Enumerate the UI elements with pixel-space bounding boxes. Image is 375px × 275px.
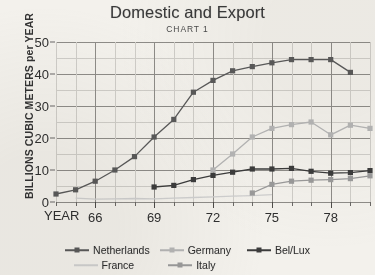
data-point-marker [250, 166, 255, 171]
chart-subtitle: CHART 1 [0, 23, 375, 34]
plot-area: 01020304050 6669727578 YEAR [56, 42, 370, 202]
data-point-marker [132, 154, 137, 159]
data-point-marker [210, 167, 215, 172]
data-point-marker [152, 134, 157, 139]
series-line [76, 195, 272, 200]
data-point-marker [289, 122, 294, 127]
data-point-marker [309, 119, 314, 124]
series-italy [250, 173, 373, 195]
data-point-marker [250, 64, 255, 69]
y-tick-mark [50, 74, 55, 75]
y-tick-label: 30 [35, 99, 49, 114]
x-tick-label: 78 [324, 210, 338, 225]
data-point-marker [269, 182, 274, 187]
x-tick-mark [56, 202, 57, 206]
data-point-marker [309, 169, 314, 174]
data-point-marker [269, 60, 274, 65]
data-point-marker [367, 173, 372, 178]
legend-item-bel-lux[interactable]: Bel/Lux [247, 244, 310, 256]
x-tick-mark [350, 202, 351, 206]
data-point-marker [328, 132, 333, 137]
series-line [56, 60, 350, 194]
data-point-marker [367, 168, 372, 173]
legend-label: Germany [188, 244, 231, 256]
x-tick-mark [115, 202, 116, 206]
series-line [154, 168, 370, 187]
y-tick-mark [50, 42, 55, 43]
data-point-marker [93, 179, 98, 184]
y-tick-label: 50 [35, 35, 49, 50]
x-tick-label: 75 [265, 210, 279, 225]
data-point-marker [348, 123, 353, 128]
legend-swatch-icon [160, 245, 184, 255]
x-tick-mark [213, 202, 214, 208]
x-tick-label: 72 [206, 210, 220, 225]
data-point-marker [289, 179, 294, 184]
x-tick-mark [252, 202, 253, 206]
x-tick-mark [95, 202, 96, 208]
legend-row-primary: NetherlandsGermanyBel/Lux [65, 244, 310, 256]
data-point-marker [348, 170, 353, 175]
chart-page: Domestic and Export CHART 1 BILLIONS CUB… [0, 0, 375, 275]
data-point-marker [230, 151, 235, 156]
data-point-marker [171, 183, 176, 188]
series-netherlands [53, 57, 353, 197]
data-point-marker [309, 178, 314, 183]
data-point-marker [269, 166, 274, 171]
legend-item-germany[interactable]: Germany [160, 244, 231, 256]
x-tick-mark [76, 202, 77, 206]
series-germany [210, 119, 372, 172]
legend-row-secondary: FranceItaly [74, 259, 302, 271]
x-tick-mark [135, 202, 136, 206]
data-point-marker [250, 190, 255, 195]
data-point-marker [112, 167, 117, 172]
data-point-marker [309, 57, 314, 62]
data-point-marker [328, 177, 333, 182]
y-axis-label: BILLIONS CUBIC METERS per YEAR [23, 1, 35, 211]
data-point-marker [171, 117, 176, 122]
series-bel-lux [152, 166, 373, 190]
y-tick-mark [50, 170, 55, 171]
legend-item-italy[interactable]: Italy [168, 259, 215, 271]
legend-item-netherlands[interactable]: Netherlands [65, 244, 150, 256]
data-point-marker [289, 166, 294, 171]
legend-label: France [102, 259, 135, 271]
x-tick-mark [331, 202, 332, 208]
data-point-marker [230, 68, 235, 73]
data-point-marker [250, 134, 255, 139]
x-tick-mark [292, 202, 293, 206]
legend-item-france[interactable]: France [74, 259, 135, 271]
data-point-marker [152, 184, 157, 189]
x-tick-mark [272, 202, 273, 208]
data-point-marker [210, 78, 215, 83]
data-point-marker [230, 170, 235, 175]
data-point-marker [348, 70, 353, 75]
legend-label: Bel/Lux [275, 244, 310, 256]
data-point-marker [73, 187, 78, 192]
y-tick-mark [50, 106, 55, 107]
x-tick-mark [233, 202, 234, 206]
data-point-marker [191, 177, 196, 182]
x-tick-mark [154, 202, 155, 208]
x-axis-label: YEAR [44, 208, 79, 223]
chart-legend: NetherlandsGermanyBel/Lux FranceItaly [0, 244, 375, 271]
legend-swatch-icon [65, 245, 89, 255]
data-point-marker [269, 126, 274, 131]
data-point-marker [348, 176, 353, 181]
data-point-marker [289, 57, 294, 62]
legend-swatch-icon [168, 260, 192, 270]
series-france [76, 195, 272, 200]
y-tick-label: 10 [35, 163, 49, 178]
series-lines [56, 42, 370, 202]
chart-title: Domestic and Export [0, 3, 375, 22]
legend-label: Netherlands [93, 244, 150, 256]
data-point-marker [53, 191, 58, 196]
data-point-marker [328, 171, 333, 176]
x-tick-label: 69 [147, 210, 161, 225]
data-point-marker [210, 173, 215, 178]
legend-label: Italy [196, 259, 215, 271]
y-tick-mark [50, 202, 55, 203]
legend-swatch-icon [247, 245, 271, 255]
data-point-marker [328, 57, 333, 62]
data-point-marker [367, 126, 372, 131]
